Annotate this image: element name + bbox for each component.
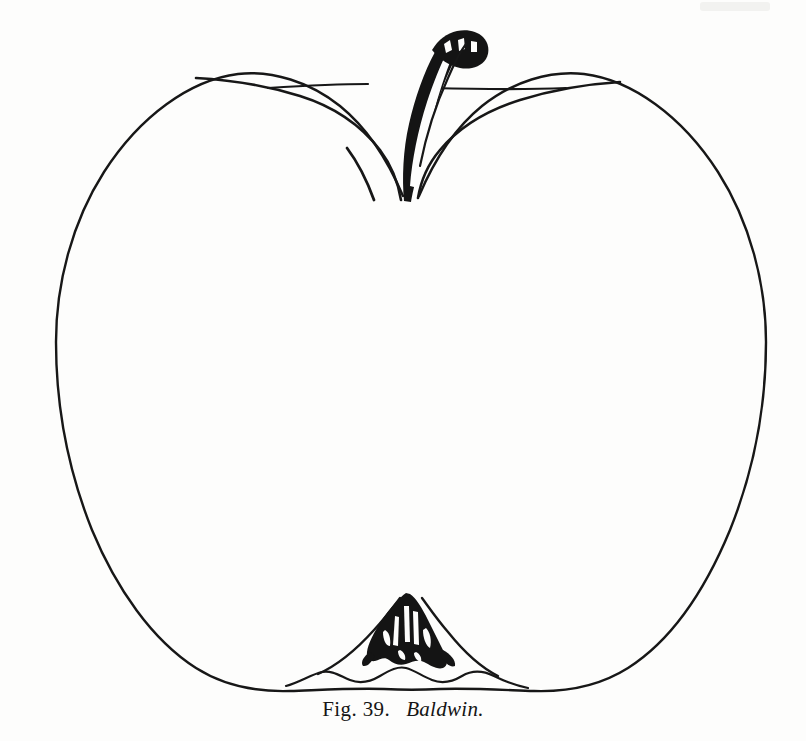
apple-engraving	[0, 0, 806, 700]
stem-tip-notch-c	[471, 41, 477, 52]
stem-cavity-left-line	[196, 78, 401, 200]
figure-number-label: Fig. 39.	[322, 697, 390, 721]
stem-cavity-left-v	[347, 148, 374, 200]
calyx-streak-1	[404, 606, 410, 642]
stem	[403, 30, 488, 202]
variety-name-label: Baldwin.	[406, 697, 484, 721]
basin-ridge-line	[286, 667, 528, 688]
stem-cavity-shoulder-left	[268, 84, 368, 88]
stem-cavity-right-line	[418, 82, 620, 198]
apple-figure	[0, 0, 806, 700]
figure-caption: Fig. 39.Baldwin.	[0, 697, 806, 722]
illustration-plate: Fig. 39.Baldwin.	[0, 0, 806, 741]
calyx	[362, 593, 455, 668]
stem-cavity-shoulder-right	[432, 88, 566, 89]
paper-smudge	[700, 2, 770, 11]
calyx-streak-2	[413, 611, 419, 645]
